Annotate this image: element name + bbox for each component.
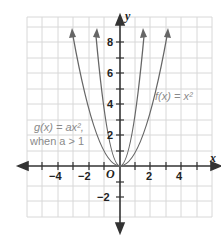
y-tick-2: 2 [107, 129, 113, 141]
y-tick-m2: −2 [97, 191, 110, 203]
x-axis-label: x [210, 151, 216, 166]
x-tick-4: 4 [176, 170, 182, 182]
y-tick-4: 4 [107, 98, 113, 110]
f-label: f(x) = x² [155, 90, 193, 102]
x-tick-2: 2 [146, 170, 152, 182]
y-tick-8: 8 [107, 36, 113, 48]
g-label-line1: g(x) = ax², [34, 121, 84, 133]
x-tick-m4: −4 [49, 170, 62, 182]
y-axis-label: y [125, 9, 130, 24]
g-label-line2: when a > 1 [30, 135, 84, 147]
y-tick-6: 6 [107, 67, 113, 79]
x-tick-m2: −2 [78, 170, 91, 182]
origin-label: O [106, 167, 115, 182]
